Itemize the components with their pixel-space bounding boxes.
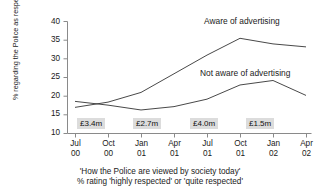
chart-caption: 'How the Police are viewed by society to… — [0, 167, 320, 188]
y-tick-marks — [64, 22, 68, 134]
caption-line-1: 'How the Police are viewed by society to… — [0, 167, 320, 177]
chart-plot-svg — [0, 0, 320, 194]
spend-box-1-5m: £1.5m — [246, 118, 274, 129]
caption-line-2: % rating 'highly respected' or 'quite re… — [0, 177, 320, 187]
x-tick-month: Apr — [287, 139, 320, 149]
spend-box-2-7m: £2.7m — [133, 118, 161, 129]
x-tick-year: 02 — [287, 149, 320, 159]
series-line-not-aware — [75, 80, 306, 109]
x-tick-label-apr-02: Apr 02 — [287, 139, 320, 158]
series-label-not-aware: Not aware of advertising — [200, 69, 290, 78]
x-tick-marks — [76, 134, 307, 138]
spend-box-4-0m: £4.0m — [190, 118, 218, 129]
series-label-aware: Aware of advertising — [204, 17, 280, 26]
chart-container: % regarding the Police as respected 40 3… — [0, 0, 320, 194]
spend-box-3-4m: £3.4m — [77, 118, 105, 129]
